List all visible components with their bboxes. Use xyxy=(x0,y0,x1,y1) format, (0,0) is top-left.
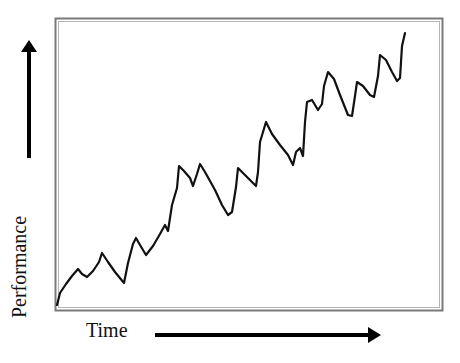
plot-frame-inner xyxy=(59,22,440,308)
arrow-right-icon xyxy=(155,327,381,343)
arrow-up-icon xyxy=(21,40,37,158)
diagram-canvas xyxy=(0,0,460,363)
plot-frame-outer xyxy=(56,19,443,311)
x-axis-label: Time xyxy=(86,318,128,342)
performance-line xyxy=(57,33,405,305)
y-axis-label: Performance xyxy=(5,202,33,332)
